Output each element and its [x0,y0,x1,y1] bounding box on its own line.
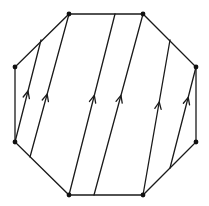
chord-3 [69,14,115,195]
chord-4 [94,14,143,195]
vertex-right-lower [194,140,199,145]
chord-2 [30,14,69,157]
vertex-left-lower [13,140,18,145]
vertex-group [13,12,199,198]
arrow-group [23,91,189,109]
octagon-boundary [15,14,196,195]
vertex-top-right [141,12,146,17]
vertex-top-left [67,12,72,17]
vertex-right-upper [194,65,199,70]
vertex-bottom-right [141,193,146,198]
vertex-left-upper [13,65,18,70]
octagon-diagram [0,0,209,206]
chord-6 [170,67,196,168]
vertex-bottom-left [67,193,72,198]
